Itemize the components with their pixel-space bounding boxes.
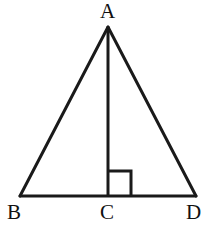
vertex-label-d: D — [186, 202, 201, 223]
vertex-label-a: A — [100, 1, 115, 22]
geometry-canvas — [0, 0, 214, 234]
right-angle-marker — [108, 171, 131, 196]
right-angle-square-icon — [108, 171, 131, 196]
vertex-label-b: B — [7, 202, 21, 223]
geometry-figure: A B C D — [0, 0, 214, 234]
vertex-label-c: C — [100, 202, 114, 223]
segment-ab — [20, 27, 108, 196]
